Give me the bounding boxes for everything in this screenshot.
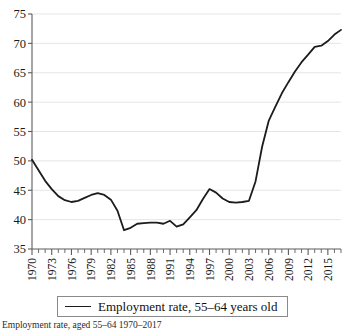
- legend-line-swatch: [65, 306, 91, 307]
- data-series: [32, 30, 341, 230]
- svg-text:2009: 2009: [283, 258, 295, 281]
- y-axis: 354045505560657075: [14, 7, 33, 256]
- gridlines: [32, 14, 341, 220]
- svg-text:2000: 2000: [223, 258, 235, 281]
- figure-caption: Employment rate, aged 55–64 1970–2017: [2, 320, 162, 330]
- svg-text:1970: 1970: [26, 258, 38, 281]
- svg-text:2015: 2015: [322, 258, 334, 281]
- svg-text:40: 40: [14, 213, 27, 227]
- svg-text:1985: 1985: [125, 258, 137, 281]
- svg-text:75: 75: [14, 7, 27, 21]
- svg-text:2006: 2006: [263, 258, 275, 281]
- svg-text:65: 65: [14, 66, 27, 80]
- svg-text:50: 50: [14, 154, 27, 168]
- svg-text:60: 60: [14, 96, 27, 110]
- chart-legend: Employment rate, 55–64 years old: [57, 296, 288, 317]
- svg-text:1973: 1973: [46, 258, 58, 281]
- x-axis: 1970197319761979198219851988199119941997…: [26, 249, 341, 281]
- svg-text:1988: 1988: [145, 258, 157, 281]
- svg-text:1997: 1997: [204, 258, 216, 281]
- svg-text:35: 35: [14, 242, 27, 256]
- svg-text:1982: 1982: [105, 258, 117, 281]
- svg-text:1991: 1991: [164, 258, 176, 281]
- svg-text:70: 70: [14, 37, 27, 51]
- svg-text:2012: 2012: [302, 258, 314, 281]
- svg-text:2003: 2003: [243, 258, 255, 281]
- svg-text:55: 55: [14, 125, 27, 139]
- svg-text:1976: 1976: [66, 258, 78, 281]
- svg-text:1994: 1994: [184, 258, 196, 281]
- svg-text:45: 45: [14, 184, 27, 198]
- legend-label: Employment rate, 55–64 years old: [98, 300, 277, 313]
- svg-text:1979: 1979: [85, 258, 97, 281]
